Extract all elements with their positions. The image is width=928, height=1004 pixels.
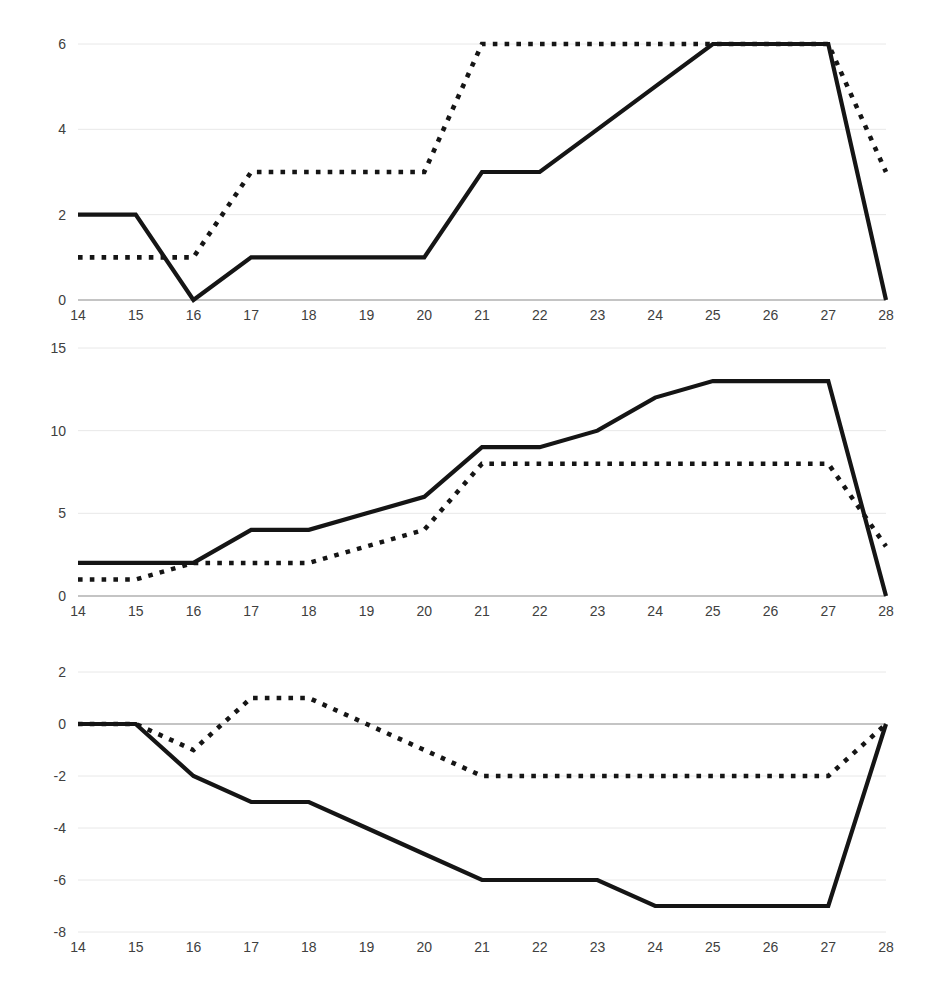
xtick-label: 18 [301,307,317,323]
xtick-label: 24 [647,939,663,955]
xtick-label: 23 [590,939,606,955]
xtick-label: 18 [301,603,317,619]
ytick-label: 2 [58,664,66,680]
series-line-dotted [78,464,886,580]
xtick-label: 15 [128,939,144,955]
xtick-label: 28 [878,307,894,323]
chart-panel-3: -8-6-4-202141516171819202122232425262728 [0,644,928,990]
xtick-label: 20 [416,603,432,619]
xtick-label: 14 [70,307,86,323]
series-line-solid [78,44,886,300]
ytick-label: 6 [58,36,66,52]
line-chart-2: 051015141516171819202122232425262728 [0,332,928,644]
xtick-label: 25 [705,939,721,955]
series-line-dotted [78,698,886,776]
ytick-label: 2 [58,207,66,223]
xtick-label: 20 [416,307,432,323]
xtick-label: 17 [243,307,259,323]
xtick-label: 21 [474,939,490,955]
xtick-label: 27 [820,603,836,619]
xtick-label: 17 [243,939,259,955]
xtick-label: 23 [590,307,606,323]
xtick-label: 24 [647,307,663,323]
series-line-solid [78,724,886,906]
series-line-solid [78,381,886,596]
xtick-label: 22 [532,603,548,619]
chart-panel-2: 051015141516171819202122232425262728 [0,332,928,644]
xtick-label: 17 [243,603,259,619]
ytick-label: 0 [58,588,66,604]
xtick-label: 19 [359,603,375,619]
xtick-label: 24 [647,603,663,619]
ytick-label: 5 [58,505,66,521]
ytick-label: -6 [54,872,67,888]
xtick-label: 28 [878,603,894,619]
line-chart-3: -8-6-4-202141516171819202122232425262728 [0,644,928,990]
line-chart-1: 0246141516171819202122232425262728 [0,0,928,332]
xtick-label: 21 [474,603,490,619]
xtick-label: 14 [70,939,86,955]
ytick-label: 4 [58,121,66,137]
ytick-label: 10 [50,423,66,439]
xtick-label: 15 [128,603,144,619]
xtick-label: 27 [820,307,836,323]
ytick-label: -4 [54,820,67,836]
xtick-label: 19 [359,939,375,955]
xtick-label: 18 [301,939,317,955]
xtick-label: 23 [590,603,606,619]
series-line-dotted [78,44,886,257]
xtick-label: 15 [128,307,144,323]
ytick-label: 15 [50,340,66,356]
ytick-label: -2 [54,768,67,784]
xtick-label: 16 [186,939,202,955]
xtick-label: 27 [820,939,836,955]
xtick-label: 28 [878,939,894,955]
xtick-label: 21 [474,307,490,323]
xtick-label: 25 [705,603,721,619]
xtick-label: 25 [705,307,721,323]
xtick-label: 16 [186,307,202,323]
xtick-label: 22 [532,307,548,323]
ytick-label: 0 [58,716,66,732]
xtick-label: 19 [359,307,375,323]
xtick-label: 26 [763,603,779,619]
xtick-label: 20 [416,939,432,955]
xtick-label: 26 [763,939,779,955]
chart-panel-1: 0246141516171819202122232425262728 [0,0,928,332]
xtick-label: 22 [532,939,548,955]
xtick-label: 14 [70,603,86,619]
ytick-label: -8 [54,924,67,940]
ytick-label: 0 [58,292,66,308]
xtick-label: 26 [763,307,779,323]
xtick-label: 16 [186,603,202,619]
